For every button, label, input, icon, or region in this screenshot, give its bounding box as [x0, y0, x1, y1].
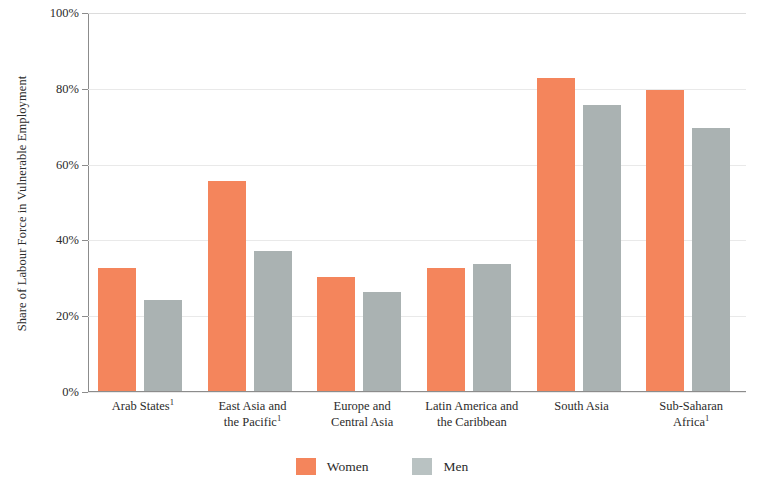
footnote-marker: 1: [705, 413, 709, 423]
category-label-line: Sub-Saharan: [627, 398, 755, 414]
x-axis-category-label: Sub-SaharanAfrica1: [627, 398, 755, 430]
legend-swatch-women: [296, 458, 316, 475]
bar-men: [144, 300, 182, 391]
footnote-marker: 1: [277, 413, 281, 423]
bar-men: [692, 128, 730, 391]
bar-group: [198, 12, 308, 391]
bar-group: [88, 12, 198, 391]
bar-group: [527, 12, 637, 391]
y-axis-title: Share of Labour Force in Vulnerable Empl…: [15, 14, 30, 394]
bar-men: [473, 264, 511, 391]
bar-women: [208, 181, 246, 391]
bar-group: [417, 12, 527, 391]
y-tick-label: 20%: [56, 309, 79, 324]
bar-group: [636, 12, 746, 391]
bar-women: [646, 90, 684, 391]
bar-women: [98, 268, 136, 391]
vulnerable-employment-bar-chart: Share of Labour Force in Vulnerable Empl…: [0, 0, 764, 486]
footnote-marker: 1: [170, 397, 174, 407]
y-tick-mark: [82, 392, 88, 393]
gridline: [88, 392, 746, 393]
legend-item: Women: [296, 458, 369, 475]
legend-label: Men: [443, 459, 468, 475]
bar-group: [307, 12, 417, 391]
bar-women: [427, 268, 465, 391]
bar-women: [537, 78, 575, 391]
bar-men: [363, 292, 401, 391]
bar-men: [254, 251, 292, 391]
legend-swatch-men: [412, 458, 432, 475]
chart-legend: WomenMen: [0, 458, 764, 475]
y-tick-label: 60%: [56, 157, 79, 172]
category-label-line: the Caribbean: [408, 414, 536, 430]
y-tick-label: 0%: [62, 385, 79, 400]
plot-area: 0%20%40%60%80%100%: [88, 13, 746, 392]
category-label-line: Africa1: [627, 414, 755, 430]
bar-men: [583, 105, 621, 391]
bar-women: [317, 277, 355, 391]
y-tick-label: 80%: [56, 81, 79, 96]
y-tick-label: 100%: [50, 6, 79, 21]
legend-item: Men: [412, 458, 468, 475]
x-axis-category-labels: Arab States1East Asia andthe Pacific1Eur…: [88, 398, 746, 444]
legend-label: Women: [327, 459, 369, 475]
y-tick-label: 40%: [56, 233, 79, 248]
